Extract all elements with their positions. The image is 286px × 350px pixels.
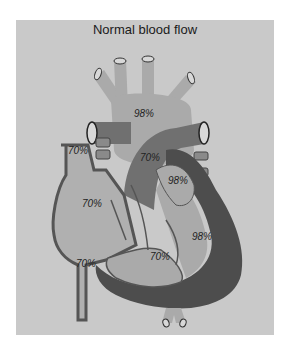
label-right-atrium-upper: 70% bbox=[68, 145, 88, 156]
heart-illustration bbox=[16, 20, 274, 335]
label-left-atrium: 98% bbox=[168, 175, 188, 186]
label-left-ventricle: 98% bbox=[192, 231, 212, 242]
descending-aorta-openings bbox=[162, 318, 187, 328]
label-pulmonary-artery: 70% bbox=[140, 152, 160, 163]
label-inferior-vena-cava: 70% bbox=[76, 258, 96, 269]
label-right-atrium: 70% bbox=[82, 198, 102, 209]
pulmonary-veins-right bbox=[96, 138, 110, 159]
label-aorta: 98% bbox=[134, 108, 154, 119]
label-right-ventricle: 70% bbox=[150, 251, 170, 262]
diagram-panel: Normal blood flow bbox=[16, 20, 274, 335]
